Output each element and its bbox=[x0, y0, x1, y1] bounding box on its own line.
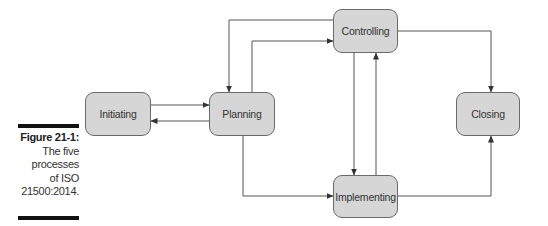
edge-controlling-to-closing bbox=[398, 31, 491, 92]
node-label: Controlling bbox=[342, 25, 390, 37]
node-controlling: Controlling bbox=[333, 9, 398, 53]
node-closing: Closing bbox=[456, 92, 520, 136]
edge-planning-to-controlling bbox=[252, 41, 333, 92]
node-label: Planning bbox=[222, 108, 261, 120]
edge-planning-to-implementing bbox=[243, 136, 333, 196]
edge-controlling-to-planning bbox=[229, 20, 333, 92]
node-label: Implementing bbox=[335, 191, 396, 203]
node-label: Initiating bbox=[99, 108, 136, 120]
node-planning: Planning bbox=[209, 92, 275, 136]
edge-implementing-to-closing bbox=[398, 136, 491, 196]
node-implementing: Implementing bbox=[333, 175, 398, 218]
node-label: Closing bbox=[471, 108, 505, 120]
node-initiating: Initiating bbox=[85, 92, 151, 136]
